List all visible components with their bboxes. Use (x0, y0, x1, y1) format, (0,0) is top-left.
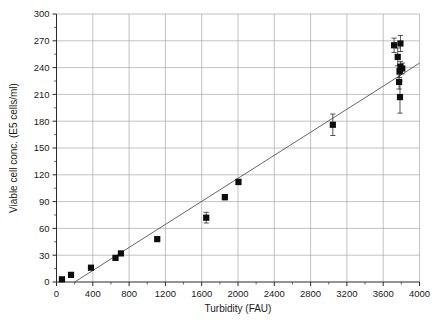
data-point (59, 276, 65, 282)
data-point (235, 179, 241, 185)
data-point (112, 255, 118, 261)
x-tick-label: 2400 (264, 288, 285, 299)
data-point (68, 272, 74, 278)
x-tick-label: 3200 (336, 288, 357, 299)
data-point (88, 265, 94, 271)
data-point (203, 215, 209, 221)
data-point (391, 42, 397, 48)
x-tick-label: 1200 (155, 288, 176, 299)
y-tick-label: 300 (34, 8, 50, 19)
data-point (395, 54, 401, 60)
data-point (154, 236, 160, 242)
y-tick-label: 240 (34, 62, 50, 73)
data-point (396, 79, 402, 85)
x-tick-label: 0 (54, 288, 59, 299)
data-point (397, 40, 403, 46)
x-tick-label: 2000 (227, 288, 248, 299)
scatter-chart: 0306090120150180210240270300 04008001200… (0, 0, 436, 328)
y-tick-label: 210 (34, 89, 50, 100)
y-axis-title: Viable cell conc. (E5 cells/ml) (8, 83, 19, 213)
y-tick-label: 180 (34, 116, 50, 127)
x-tick-label: 800 (121, 288, 137, 299)
x-axis-title: Turbidity (FAU) (205, 303, 272, 314)
data-point (397, 94, 403, 100)
y-tick-label: 90 (39, 196, 50, 207)
y-tick-label: 150 (34, 142, 50, 153)
plot-canvas: 0306090120150180210240270300 04008001200… (0, 0, 436, 328)
y-tick-label: 270 (34, 35, 50, 46)
chart-background (0, 0, 436, 328)
data-point (330, 122, 336, 128)
x-tick-label: 400 (85, 288, 101, 299)
y-tick-label: 120 (34, 169, 50, 180)
x-tick-label: 3600 (373, 288, 394, 299)
x-tick-label: 4000 (409, 288, 430, 299)
data-point (222, 194, 228, 200)
x-tick-label: 1600 (191, 288, 212, 299)
y-tick-label: 0 (44, 276, 49, 287)
y-tick-label: 60 (39, 223, 50, 234)
data-point (396, 68, 402, 74)
y-tick-label: 30 (39, 250, 50, 261)
x-tick-label: 2800 (300, 288, 321, 299)
data-point (118, 250, 124, 256)
